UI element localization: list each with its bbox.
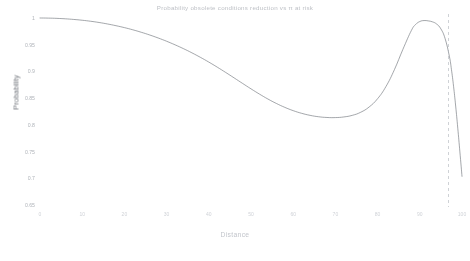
chart-figure: Probability obsolete conditions reductio… (0, 0, 470, 261)
series-line-probability (40, 18, 462, 176)
data-series-group (40, 18, 462, 176)
plot-area (0, 0, 470, 261)
